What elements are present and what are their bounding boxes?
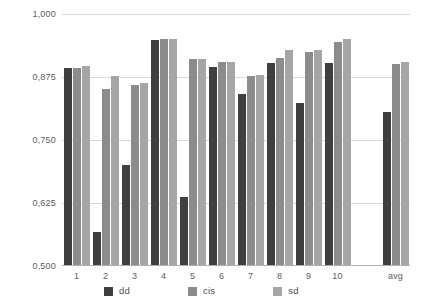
- x-tick-label: 5: [178, 268, 207, 284]
- bar-sd: [343, 39, 351, 266]
- x-axis-line: [62, 265, 410, 266]
- bar-cis: [160, 39, 168, 266]
- x-tick-label: 7: [236, 268, 265, 284]
- bar-dd: [93, 232, 101, 266]
- bar-dd: [122, 165, 130, 266]
- x-tick-label: avg: [381, 268, 410, 284]
- x-tick-label: 10: [323, 268, 352, 284]
- x-tick-label: 8: [265, 268, 294, 284]
- bar-dd: [267, 63, 275, 266]
- bar-cis: [247, 76, 255, 266]
- bar-dd: [180, 197, 188, 266]
- bar-dd: [296, 103, 304, 266]
- bar-dd: [325, 63, 333, 266]
- bar-group: [120, 14, 149, 266]
- bar-cis: [189, 59, 197, 266]
- bar-sd: [285, 50, 293, 266]
- x-tick-label: 9: [294, 268, 323, 284]
- x-tick-label: 6: [207, 268, 236, 284]
- x-tick-label: 4: [149, 268, 178, 284]
- plot-area: [62, 14, 410, 266]
- bar-cis: [73, 68, 81, 266]
- x-tick-label: [352, 268, 381, 284]
- y-tick-label: 1,000: [0, 10, 56, 19]
- bar-dd: [383, 112, 391, 266]
- x-tick-label: 3: [120, 268, 149, 284]
- bar-group: [149, 14, 178, 266]
- bar-dd: [238, 94, 246, 266]
- bar-sd: [82, 66, 90, 266]
- legend-label: sd: [288, 286, 298, 296]
- legend-label: cis: [203, 286, 215, 296]
- bar-cis: [392, 64, 400, 266]
- x-tick-label: 1: [62, 268, 91, 284]
- legend-item-sd[interactable]: sd: [273, 283, 298, 299]
- legend-item-cis[interactable]: cis: [188, 283, 215, 299]
- x-tick-label: 2: [91, 268, 120, 284]
- bar-cis: [334, 42, 342, 266]
- bar-group: [62, 14, 91, 266]
- bar-cis: [102, 89, 110, 266]
- bar-group: [381, 14, 410, 266]
- bar-dd: [209, 67, 217, 266]
- bar-group: [236, 14, 265, 266]
- bar-sd: [140, 83, 148, 266]
- legend-swatch-icon: [273, 287, 282, 296]
- legend-swatch-icon: [104, 287, 113, 296]
- bar-group: [178, 14, 207, 266]
- bar-cis: [276, 58, 284, 266]
- bar-group: [91, 14, 120, 266]
- y-tick-label: 0,875: [0, 73, 56, 82]
- bar-group: [265, 14, 294, 266]
- bar-dd: [151, 40, 159, 266]
- bar-group: [207, 14, 236, 266]
- bar-cis: [218, 62, 226, 266]
- bar-sd: [198, 59, 206, 266]
- chart-legend: ddcissd: [62, 283, 410, 299]
- bar-group: [294, 14, 323, 266]
- bar-sd: [169, 39, 177, 266]
- bar-sd: [256, 75, 264, 266]
- legend-swatch-icon: [188, 287, 197, 296]
- y-tick-label: 0,500: [0, 262, 56, 271]
- bar-cis: [305, 52, 313, 266]
- bar-sd: [111, 76, 119, 266]
- bar-sd: [314, 50, 322, 266]
- legend-item-dd[interactable]: dd: [104, 283, 130, 299]
- bar-chart: 1,0000,8750,7500,6250,500 12345678910avg…: [0, 0, 422, 307]
- y-tick-label: 0,750: [0, 136, 56, 145]
- bar-group: [323, 14, 352, 266]
- legend-label: dd: [119, 286, 130, 296]
- bar-dd: [64, 68, 72, 266]
- x-axis-labels: 12345678910avg: [62, 268, 410, 284]
- bar-sd: [227, 62, 235, 266]
- bar-cis: [131, 85, 139, 266]
- bar-groups: [62, 14, 410, 266]
- y-tick-label: 0,625: [0, 199, 56, 208]
- bar-sd: [401, 62, 409, 266]
- bar-group: [352, 14, 381, 266]
